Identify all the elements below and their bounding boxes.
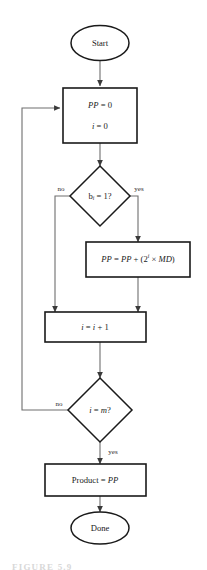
node-init[interactable]: PP = 0 i = 0 [63, 88, 137, 143]
increment-rest: + 1 [95, 322, 108, 332]
edge-decision-done-no-loopback [22, 108, 70, 410]
edge-decision-bit-no [55, 196, 70, 312]
init-box [63, 88, 137, 143]
init-line2-rest: = 0 [94, 121, 107, 131]
result-var: PP [107, 475, 119, 485]
edge-decision-bit-yes [130, 196, 138, 242]
accumulate-part3: PP [120, 254, 132, 264]
node-done[interactable]: Done [71, 512, 129, 544]
init-line1-rest: = 0 [99, 100, 112, 110]
flowchart-canvas: Start PP = 0 i = 0 bi = 1? no yes PP = P… [0, 0, 207, 570]
done-label: Done [91, 523, 110, 533]
node-start[interactable]: Start [71, 26, 129, 61]
decision-done-rest: ? [107, 405, 111, 415]
decision-bit-branch-no: no [58, 185, 66, 193]
accumulate-part5: × [149, 254, 158, 264]
figure-caption: FIGURE 5.9 [12, 562, 202, 570]
result-text: Product = [72, 475, 108, 485]
node-accumulate[interactable]: PP = PP + (2i × MD) [86, 242, 190, 277]
node-increment[interactable]: i = i + 1 [45, 312, 146, 342]
decision-done-mid: = [92, 405, 101, 415]
decision-done-branch-no: no [56, 400, 64, 408]
decision-bit-rest: = 1? [94, 191, 111, 201]
decision-bit-branch-yes: yes [134, 185, 144, 193]
node-result[interactable]: Product = PP [45, 464, 146, 496]
node-decision-done[interactable]: i = m? no yes [56, 378, 133, 456]
accumulate-part4: + (2 [131, 254, 147, 264]
accumulate-part2: = [112, 254, 121, 264]
init-line2: i = 0 [92, 121, 108, 131]
increment-label: i = i + 1 [81, 322, 108, 332]
increment-mid: = [84, 322, 93, 332]
decision-bit-label: bi = 1? [88, 191, 111, 202]
accumulate-part6: MD [157, 254, 172, 264]
decision-done-label: i = m? [89, 405, 111, 415]
result-label: Product = PP [72, 475, 119, 485]
init-line1: PP = 0 [87, 100, 112, 110]
init-line1-var: PP [87, 100, 99, 110]
accumulate-part7: ) [172, 254, 175, 264]
start-label: Start [92, 38, 109, 48]
node-decision-bit[interactable]: bi = 1? no yes [58, 166, 144, 226]
accumulate-label: PP = PP + (2i × MD) [100, 253, 175, 264]
decision-done-branch-yes: yes [108, 448, 118, 456]
accumulate-part1: PP [100, 254, 112, 264]
